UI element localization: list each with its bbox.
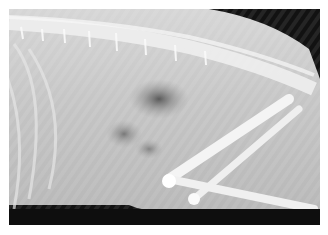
radiograph-image [9,9,320,225]
radiograph-illustration [9,9,320,225]
